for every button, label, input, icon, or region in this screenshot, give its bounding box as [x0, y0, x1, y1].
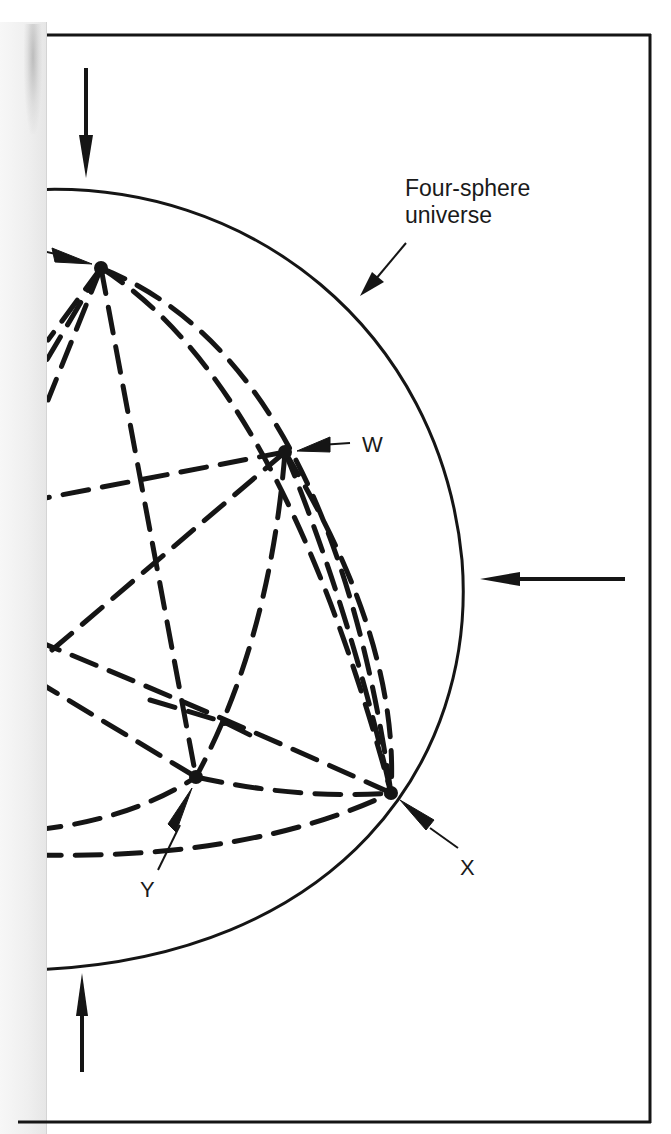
junction-point — [220, 718, 228, 726]
label-x: X — [460, 855, 475, 880]
top-arrow-icon — [79, 68, 93, 178]
point-w — [278, 445, 292, 459]
label-pointer-icon — [360, 243, 406, 296]
pointer-w-icon — [297, 437, 330, 452]
point-top — [94, 261, 108, 275]
label-y: Y — [140, 877, 155, 902]
points — [94, 261, 398, 800]
pointer-x-icon — [400, 800, 434, 830]
bottom-arrow-icon — [76, 973, 88, 1072]
label-w: W — [362, 432, 383, 457]
right-arrow-icon — [480, 572, 625, 586]
label-four-sphere: Four-sphere — [405, 175, 530, 201]
pointer-top-icon — [52, 248, 92, 264]
label-universe: universe — [405, 202, 492, 228]
point-y — [189, 770, 203, 784]
point-x — [384, 786, 398, 800]
geodesic-lines — [35, 268, 392, 855]
four-sphere-diagram: Four-sphere universe W X Y — [0, 0, 671, 1134]
